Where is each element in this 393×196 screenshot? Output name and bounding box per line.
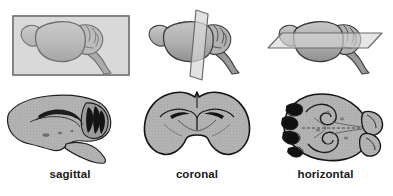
panel-coronal: coronal [134, 0, 260, 196]
sagittal-plane-overlay [13, 16, 129, 75]
coronal-histology-section [134, 86, 260, 166]
panel-sagittal: sagittal [0, 0, 140, 196]
coronal-plane-diagram [134, 2, 260, 86]
section-horizontal [258, 86, 393, 166]
brainstem-region [65, 143, 106, 164]
panel-horizontal: horizontal [258, 0, 393, 196]
caption-sagittal: sagittal [0, 168, 140, 180]
section-sagittal [0, 86, 140, 166]
horizontal-cutting-plane [268, 33, 382, 48]
diagram-sagittal [0, 2, 140, 86]
coronal-cutting-plane [190, 10, 208, 80]
caption-coronal: coronal [134, 168, 260, 180]
diagram-coronal [134, 2, 260, 86]
brain-sectioning-figure: sagittal [0, 0, 393, 196]
horizontal-plane-diagram [258, 2, 393, 86]
cerebellum-lobe-lower [360, 133, 381, 156]
caption-horizontal: horizontal [258, 168, 393, 180]
horizontal-histology-section [258, 86, 393, 166]
cerebellum-lobe-upper [362, 111, 383, 135]
diagram-horizontal [258, 2, 393, 86]
sagittal-histology-section [0, 86, 140, 166]
section-coronal [134, 86, 260, 166]
sagittal-plane-diagram [0, 2, 140, 86]
